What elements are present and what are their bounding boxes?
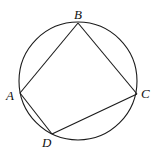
label-d: D <box>41 135 52 149</box>
segment-ab <box>20 23 78 93</box>
segment-bc <box>78 23 137 94</box>
label-b: B <box>74 7 82 22</box>
segment-cd <box>52 94 137 134</box>
label-c: C <box>141 86 150 101</box>
diagram-canvas: A B C D <box>0 0 155 149</box>
label-a: A <box>5 88 14 103</box>
segment-da <box>20 93 52 134</box>
cyclic-quadrilateral-figure: A B C D <box>0 0 155 149</box>
